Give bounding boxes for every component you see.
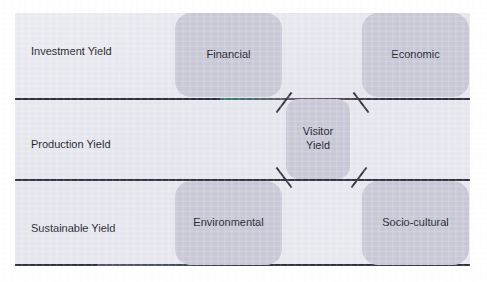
node-visitor-yield-label-line1: Visitor [303, 125, 333, 137]
row-label-investment-yield: Investment Yield [31, 45, 112, 57]
node-socio-cultural-label: Socio-cultural [382, 216, 449, 230]
node-economic: Economic [362, 13, 469, 97]
node-socio-cultural: Socio-cultural [362, 181, 469, 265]
node-financial: Financial [175, 13, 282, 97]
row-label-sustainable-yield: Sustainable Yield [31, 222, 115, 234]
node-financial-label: Financial [206, 48, 250, 62]
node-visitor-yield-label-line2: Yield [306, 139, 330, 151]
node-economic-label: Economic [391, 48, 439, 62]
node-visitor-yield: Visitor Yield [286, 99, 350, 179]
yield-framework-diagram: Investment Yield Production Yield Sustai… [0, 0, 487, 282]
node-visitor-yield-label: Visitor Yield [303, 125, 333, 153]
node-environmental-label: Environmental [193, 216, 263, 230]
divider-rule-top [15, 98, 470, 100]
row-label-production-yield: Production Yield [31, 138, 111, 150]
node-environmental: Environmental [175, 181, 282, 265]
